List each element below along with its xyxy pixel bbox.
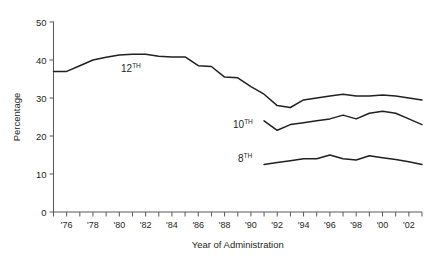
y-tick-label: 10 xyxy=(36,169,47,180)
line-chart-plot: 01020304050 '76'78'80'82'84'86'88'90'92'… xyxy=(0,0,430,268)
x-tick-label: '78 xyxy=(87,220,99,230)
x-tick-label: '96 xyxy=(324,220,336,230)
x-tick-label: '88 xyxy=(219,220,231,230)
series-line-8th xyxy=(264,155,422,165)
x-tick-label: '92 xyxy=(271,220,283,230)
y-tick-label: 0 xyxy=(41,207,46,218)
x-tick-label: '90 xyxy=(245,220,257,230)
series-lines xyxy=(54,54,423,164)
x-tick-label: '76 xyxy=(61,220,73,230)
x-tick-label: '86 xyxy=(192,220,204,230)
x-axis-title: Year of Administration xyxy=(192,239,284,250)
x-tick-label: '82 xyxy=(140,220,152,230)
x-tick-label: '94 xyxy=(298,220,310,230)
y-axis: 01020304050 xyxy=(36,17,54,218)
series-label-8th: 8TH xyxy=(238,152,253,164)
y-axis-title: Percentage xyxy=(11,93,22,142)
series-label-10th: 10TH xyxy=(233,118,253,130)
x-axis: '76'78'80'82'84'86'88'90'92'94'96'98'00'… xyxy=(54,212,423,230)
x-tick-label: '80 xyxy=(113,220,125,230)
x-tick-label: '84 xyxy=(166,220,178,230)
y-tick-label: 20 xyxy=(36,131,47,142)
series-line-12th xyxy=(54,54,423,107)
y-tick-label: 40 xyxy=(36,55,47,66)
series-label-12th: 12TH xyxy=(121,62,141,74)
y-tick-label: 30 xyxy=(36,93,47,104)
series-line-10th xyxy=(264,111,422,130)
y-tick-label: 50 xyxy=(36,17,47,28)
x-tick-label: '98 xyxy=(350,220,362,230)
x-tick-label: '00 xyxy=(377,220,389,230)
chart-container: 01020304050 '76'78'80'82'84'86'88'90'92'… xyxy=(0,0,430,268)
x-tick-label: '02 xyxy=(403,220,415,230)
